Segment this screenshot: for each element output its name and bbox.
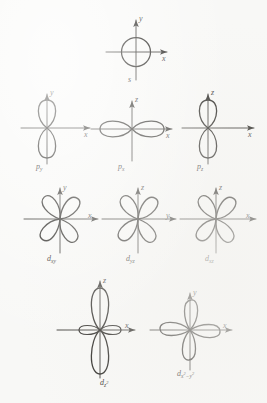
axis-label-y: y: [50, 89, 54, 97]
orbital-figure: x y s x y py: [0, 0, 267, 403]
axis-label-x: x: [246, 212, 250, 220]
axis-label-y: y: [166, 212, 170, 220]
dx2y2-lobe-up: [185, 300, 198, 330]
axis-label-x: x: [88, 212, 92, 220]
orbital-px: x z: [88, 95, 180, 165]
orbital-label-dxz-sub: xz: [209, 258, 214, 264]
orbital-label-dyz: dyz: [126, 255, 135, 263]
axis-label-x: x: [162, 55, 166, 63]
dyz-lobe-1: [117, 193, 144, 222]
orbital-label-s: s: [128, 76, 131, 84]
axis-label-z: z: [141, 184, 144, 192]
dx2y2-lobe-right: [190, 325, 220, 338]
orbital-dx2y2-diagram: [148, 288, 240, 374]
axis-label-x: x: [248, 131, 252, 139]
dxz-lobe-1: [195, 193, 222, 222]
orbital-dyz-diagram: [100, 183, 186, 255]
axis-label-z: z: [211, 89, 214, 97]
orbital-label-py: py: [36, 163, 42, 171]
orbital-label-dx2y2-sub: x2−y2: [181, 373, 194, 379]
orbital-dxz-diagram: [178, 183, 264, 255]
orbital-pz-diagram: [180, 88, 262, 166]
orbital-dyz: y z: [100, 183, 186, 255]
orbital-label-dxy-sub: xy: [51, 258, 56, 264]
dxy-lobe-3: [54, 216, 81, 245]
orbital-label-dx2y2-sub-exp: 2: [183, 371, 185, 376]
orbital-label-dyz-sub: yz: [130, 258, 135, 264]
axis-label-y: y: [139, 15, 143, 23]
orbital-s: x y: [103, 12, 175, 84]
orbital-dxz: x z: [178, 183, 264, 255]
orbital-px-diagram: [88, 95, 180, 165]
orbital-label-pz-sub: z: [201, 166, 203, 172]
orbital-label-dz2-sub: z2: [104, 382, 108, 388]
dx2y2-lobe-left: [160, 322, 190, 335]
orbital-label-dx2y2-sub-tail: −y: [186, 373, 192, 379]
axis-label-x: x: [166, 132, 170, 140]
orbital-label-dxy: dxy: [47, 255, 56, 263]
axis-label-z: z: [103, 277, 106, 285]
orbital-dxy-diagram: [22, 183, 108, 255]
orbital-dxy: x y: [22, 183, 108, 255]
axis-label-x: x: [125, 322, 129, 330]
orbital-label-dx2y2: dx2−y2: [177, 370, 194, 378]
dxz-lobe-3: [210, 216, 237, 245]
orbital-label-dx2y2-sub-exp2: 2: [192, 371, 194, 376]
dyz-lobe-3: [132, 216, 159, 245]
axis-label-x: x: [223, 322, 227, 330]
axis-label-y: y: [193, 289, 197, 297]
dx2y2-lobe-down: [182, 330, 195, 360]
orbital-label-px: px: [118, 163, 124, 171]
orbital-dz2-diagram: [55, 276, 147, 382]
orbital-dx2y2: x y: [148, 288, 240, 374]
orbital-label-px-sub: x: [122, 166, 124, 172]
orbital-dz2: x z: [55, 276, 147, 382]
orbital-pz: x z: [180, 88, 262, 166]
orbital-py-diagram: [18, 88, 98, 166]
orbital-label-py-sub: y: [40, 166, 42, 172]
orbital-label-dxz: dxz: [205, 255, 214, 263]
orbital-label-pz: pz: [197, 163, 203, 171]
dxy-lobe-1: [39, 193, 66, 222]
orbital-label-dz2: dz2: [100, 379, 108, 387]
orbital-label-s-text: s: [128, 75, 131, 84]
orbital-label-dz2-sub-exp: 2: [106, 380, 108, 385]
axis-label-z: z: [219, 184, 222, 192]
axis-label-z: z: [135, 96, 138, 104]
axis-label-y: y: [63, 184, 67, 192]
orbital-py: x y: [18, 88, 98, 166]
